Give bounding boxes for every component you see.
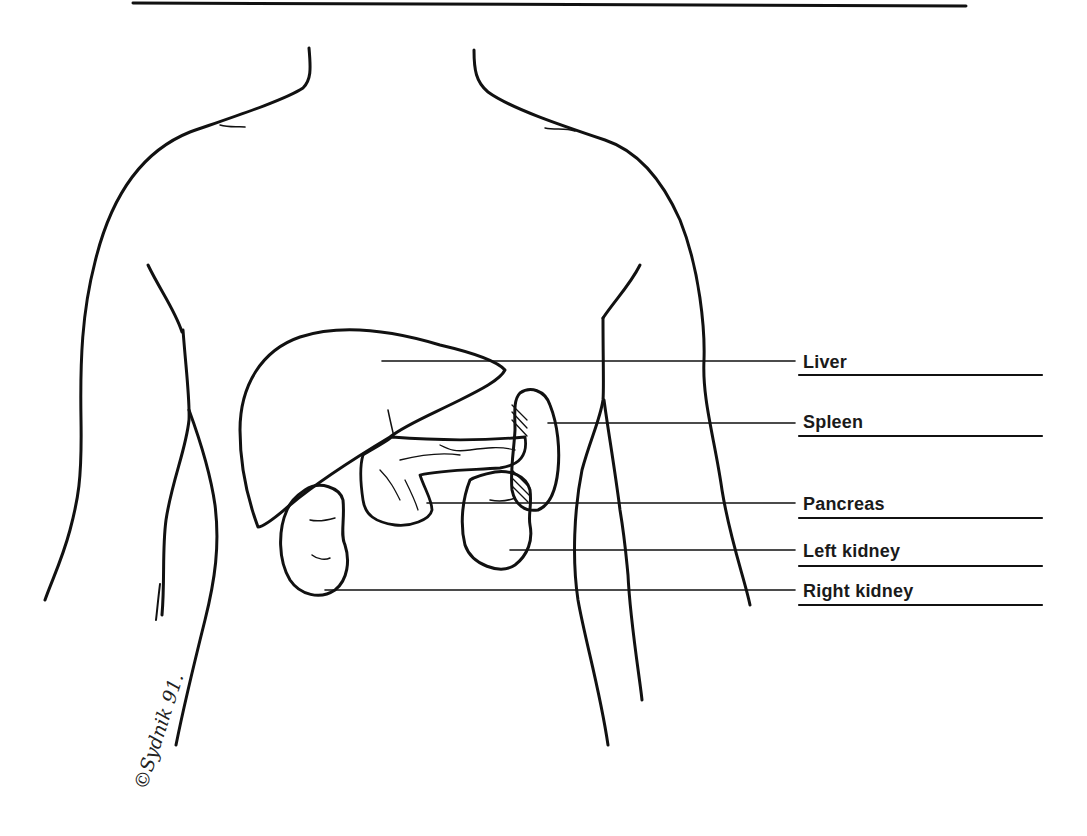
spleen-drawing bbox=[511, 390, 558, 511]
label-liver: Liver bbox=[803, 352, 847, 372]
pancreas-drawing bbox=[361, 437, 526, 525]
label-left-kidney: Left kidney bbox=[803, 541, 900, 561]
label-spleen: Spleen bbox=[803, 412, 863, 432]
label-right-kidney: Right kidney bbox=[803, 581, 913, 601]
top-rule bbox=[133, 3, 966, 6]
anatomy-diagram: Liver Spleen Pancreas Left kidney Right … bbox=[0, 0, 1087, 836]
label-pancreas: Pancreas bbox=[803, 494, 885, 514]
right-kidney-drawing bbox=[281, 485, 348, 595]
label-underlines bbox=[799, 375, 1042, 605]
leader-lines bbox=[325, 361, 795, 590]
torso-outline bbox=[45, 48, 750, 745]
